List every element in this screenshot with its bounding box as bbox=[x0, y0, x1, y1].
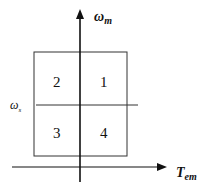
quadrant-3-label: 3 bbox=[53, 125, 61, 141]
quadrant-1-label: 1 bbox=[100, 74, 108, 90]
quadrant-diagram: ωm Tem ωs 2 1 3 4 bbox=[0, 0, 204, 193]
quadrant-4-label: 4 bbox=[100, 125, 108, 141]
vertical-axis-label: ωm bbox=[94, 9, 112, 26]
vertical-axis-arrow-icon bbox=[76, 9, 84, 19]
horizontal-axis-label: Tem bbox=[176, 165, 197, 182]
quadrant-2-label: 2 bbox=[53, 74, 61, 90]
reference-speed-label: ωs bbox=[10, 98, 21, 114]
horizontal-axis-arrow-icon bbox=[157, 163, 167, 171]
